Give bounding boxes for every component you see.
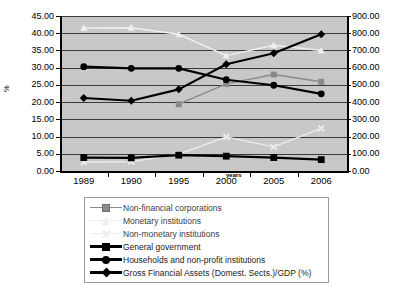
legend-item-gross-financial-assets[interactable]: Gross Financial Assets (Domest. Sects.)/… (85, 266, 328, 279)
data-point-marker (223, 76, 230, 83)
series-5 (80, 63, 324, 97)
series-line (84, 28, 322, 56)
legend-label: Monetary institutions (123, 215, 201, 227)
legend-item-general-government[interactable]: General government (85, 240, 328, 253)
y-axis-left-tick-label: 45.00 (0, 12, 54, 21)
data-point-marker (317, 30, 325, 38)
x-axis-tick-label: 1989 (61, 176, 107, 186)
x-axis-tick-label: 2005 (251, 176, 297, 186)
x-axis-tick-label: 1995 (156, 176, 202, 186)
x-axis-tick-label: 2006 (298, 176, 344, 186)
y-axis-right-tick-label: 800.00 (352, 29, 380, 38)
data-point-marker (318, 125, 324, 131)
y-axis-right-tick-label: 500.00 (352, 80, 380, 89)
data-point-marker (175, 65, 182, 72)
data-point-marker (222, 60, 230, 68)
y-axis-right-tick-label: 400.00 (352, 98, 380, 107)
legend-marker-square-gray-icon (89, 202, 123, 214)
data-point-marker (128, 65, 135, 72)
y-axis-left-tick-label: 10.00 (0, 132, 54, 141)
x-axis-tick (298, 173, 299, 177)
y-axis-right-tick-label: 200.00 (352, 132, 380, 141)
x-axis-tick (155, 173, 156, 177)
data-point-marker (270, 82, 277, 89)
chart-container: 45.0040.0035.0030.0025.0020.0015.0010.00… (0, 0, 408, 291)
y-axis-right-tick-label: 700.00 (352, 46, 380, 55)
x-axis-tick (203, 173, 204, 177)
data-point-marker (80, 94, 88, 102)
data-point-marker (176, 101, 182, 107)
x-axis-title: years (226, 172, 242, 178)
legend-item-non-monetary-institutions[interactable]: Non-monetary institutions (85, 227, 328, 240)
y-axis-left-tick-label: 30.00 (0, 63, 54, 72)
legend-label: General government (123, 241, 201, 253)
series-line (84, 67, 322, 94)
legend-marker-triangle-light-icon (89, 215, 123, 227)
y-axis-left-tick-label: 40.00 (0, 29, 54, 38)
legend-label: Gross Financial Assets (Domest. Sects.)/… (123, 267, 311, 279)
legend-item-monetary-institutions[interactable]: Monetary institutions (85, 214, 328, 227)
legend-item-households-and-non-profit-institutions[interactable]: Households and non-profit institutions (85, 253, 328, 266)
series-line (84, 155, 322, 159)
legend-marker-x-light-icon (89, 228, 123, 240)
legend-marker-square-black-icon (89, 241, 123, 253)
y-axis-right-tick-label: 900.00 (352, 12, 380, 21)
y-axis-left-tick-label: 20.00 (0, 98, 54, 107)
x-axis-tick-label: 1990 (108, 176, 154, 186)
y-axis-left-tick-label: 15.00 (0, 115, 54, 124)
y-axis-left-tick-label: 35.00 (0, 46, 54, 55)
y-axis-title: % (2, 85, 11, 92)
data-point-marker (175, 85, 183, 93)
x-axis-tick (108, 173, 109, 177)
y-axis-left-tick-label: 0.00 (0, 167, 54, 176)
y-axis-left-tick-label: 5.00 (0, 149, 54, 158)
data-point-marker (270, 154, 277, 161)
data-point-marker (80, 63, 87, 70)
legend-item-non-financial-corporations[interactable]: Non-financial corporations (85, 201, 328, 214)
data-point-marker (270, 49, 278, 57)
data-point-marker (128, 155, 135, 162)
y-axis-right-tick-label: 300.00 (352, 115, 380, 124)
data-point-marker (127, 97, 135, 105)
data-point-marker (223, 153, 230, 160)
legend-marker-circle-black-icon (89, 254, 123, 266)
data-point-marker (318, 79, 324, 85)
data-point-marker (318, 90, 325, 97)
data-point-marker (175, 152, 182, 159)
data-point-marker (318, 156, 325, 163)
chart-legend: Non-financial corporations Monetary inst… (84, 197, 329, 283)
y-axis-right-tick-label: 100.00 (352, 149, 380, 158)
legend-label: Households and non-profit institutions (123, 254, 265, 266)
legend-label: Non-monetary institutions (123, 228, 219, 240)
x-axis-tick (250, 173, 251, 177)
data-point-marker (271, 72, 277, 78)
y-axis-right-tick-label: 600.00 (352, 63, 380, 72)
legend-marker-diamond-black-icon (89, 267, 123, 279)
series-layer (60, 16, 345, 171)
y-axis-right-tick-label: 0.00 (352, 167, 370, 176)
legend-label: Non-financial corporations (123, 202, 222, 214)
series-2 (80, 24, 325, 59)
data-point-marker (80, 154, 87, 161)
